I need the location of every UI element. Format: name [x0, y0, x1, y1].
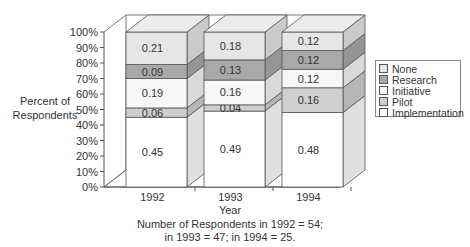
value-label: 0.06: [142, 107, 163, 119]
y-tick-label: 100%: [70, 26, 98, 38]
x-tick-label: 1993: [218, 191, 242, 203]
y-tick-label: 80%: [76, 57, 98, 69]
caption-line1: Number of Respondents in 1992 = 54;: [80, 218, 380, 231]
value-label: 0.21: [142, 42, 163, 54]
value-label: 0.16: [298, 94, 319, 106]
caption-line2: in 1993 = 47; in 1994 = 25.: [80, 231, 380, 244]
legend-item-initiative: Initiative: [379, 85, 460, 96]
value-label: 0.09: [142, 66, 163, 78]
legend-item-pilot: Pilot: [379, 96, 460, 107]
legend-swatch-research: [379, 75, 388, 84]
value-label: 0.16: [220, 86, 241, 98]
value-label: 0.49: [220, 143, 241, 155]
x-tick-label: 1992: [140, 191, 164, 203]
legend-label: Implementation: [392, 107, 464, 119]
legend-swatch-initiative: [379, 86, 388, 95]
legend-swatch-pilot: [379, 97, 388, 106]
legend-swatch-none: [379, 64, 388, 73]
bar-1992: 0.450.060.190.090.21: [126, 15, 209, 187]
value-label: 0.45: [142, 146, 163, 158]
legend-item-research: Research: [379, 74, 460, 85]
value-label: 0.18: [220, 40, 241, 52]
legend: None Research Initiative Pilot Implement…: [375, 60, 461, 117]
y-tick-label: 30%: [76, 135, 98, 147]
value-label: 0.19: [142, 87, 163, 99]
value-label: 0.12: [298, 73, 319, 85]
bar-1994: 0.480.160.120.120.12: [282, 15, 365, 187]
value-label: 0.12: [298, 54, 319, 66]
y-tick-label: 0%: [82, 181, 98, 193]
legend-item-none: None: [379, 63, 460, 74]
bar-1993: 0.490.040.160.130.18: [204, 15, 287, 187]
y-axis-label-line1: Percent of: [2, 94, 88, 108]
y-tick-label: 20%: [76, 150, 98, 162]
y-axis-label: Percent of Respondents: [2, 94, 88, 122]
value-label: 0.48: [298, 144, 319, 156]
legend-item-implementation: Implementation: [379, 107, 460, 118]
value-label: 0.13: [220, 64, 241, 76]
y-tick-label: 90%: [76, 42, 98, 54]
x-axis-label: Year: [80, 204, 380, 217]
y-tick-label: 70%: [76, 73, 98, 85]
y-tick-label: 10%: [76, 166, 98, 178]
legend-swatch-implementation: [379, 108, 388, 117]
x-tick-label: 1994: [296, 191, 320, 203]
value-label: 0.12: [298, 35, 319, 47]
y-axis-label-line2: Respondents: [2, 108, 88, 122]
